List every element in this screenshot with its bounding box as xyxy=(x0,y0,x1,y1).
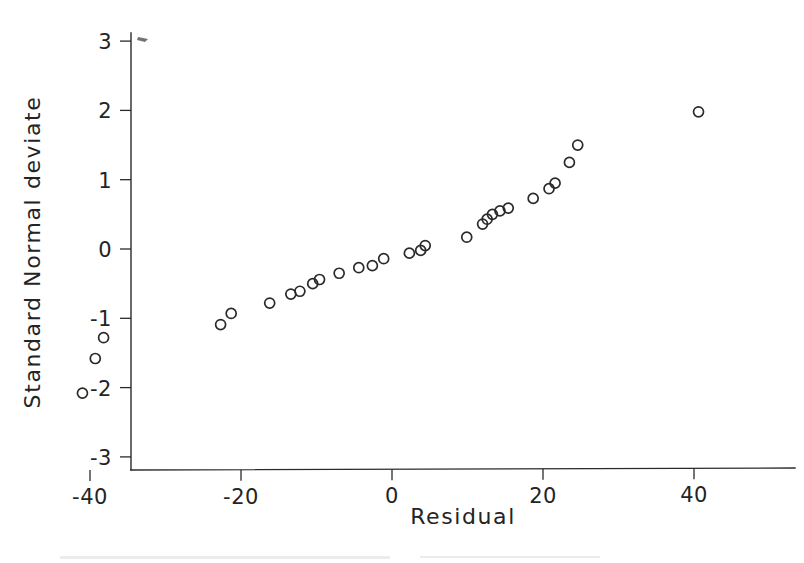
data-point xyxy=(462,232,472,242)
data-point xyxy=(90,353,100,363)
y-tick-label: -2 xyxy=(90,377,112,401)
data-point xyxy=(295,286,305,296)
x-tick-label: 0 xyxy=(385,484,399,508)
x-tick-label: 20 xyxy=(529,484,557,508)
x-axis-line xyxy=(131,468,795,470)
x-tick-group: -40-2002040 xyxy=(72,468,708,509)
y-tick-label: 2 xyxy=(98,99,112,123)
data-point xyxy=(99,333,109,343)
y-tick-label: -3 xyxy=(90,446,112,470)
data-point xyxy=(564,157,574,167)
x-axis-title: Residual xyxy=(410,504,516,529)
y-tick-label: 3 xyxy=(98,30,112,54)
x-tick-label: 40 xyxy=(680,483,708,507)
data-point xyxy=(544,184,554,194)
data-point xyxy=(404,248,414,258)
data-point xyxy=(216,320,226,330)
data-point xyxy=(334,268,344,278)
axes-group xyxy=(131,33,795,470)
data-point xyxy=(694,107,704,117)
data-point xyxy=(226,308,236,318)
y-tick-label: 0 xyxy=(98,238,112,262)
data-point xyxy=(354,263,364,273)
scan-artifact-group xyxy=(60,37,600,559)
y-tick-label: -1 xyxy=(90,307,112,331)
plot-canvas: -3-2-10123 -40-2002040 Residual Standard… xyxy=(0,0,804,563)
data-point xyxy=(77,388,87,398)
data-point-group xyxy=(77,107,703,398)
normal-probability-plot-figure: -3-2-10123 -40-2002040 Residual Standard… xyxy=(0,0,804,563)
y-tick-label: 1 xyxy=(98,169,112,193)
data-point xyxy=(528,193,538,203)
data-point xyxy=(379,254,389,264)
y-tick-group: -3-2-10123 xyxy=(90,30,131,470)
data-point xyxy=(265,298,275,308)
scan-speck-icon xyxy=(137,37,148,42)
scan-noise-band-right xyxy=(420,556,600,558)
x-tick-label: -40 xyxy=(72,485,108,509)
data-point xyxy=(550,178,560,188)
x-tick-label: -20 xyxy=(223,485,259,509)
data-point xyxy=(573,140,583,150)
scan-noise-band xyxy=(60,556,390,559)
data-point xyxy=(367,261,377,271)
y-axis-title: Standard Normal deviate xyxy=(20,96,45,409)
